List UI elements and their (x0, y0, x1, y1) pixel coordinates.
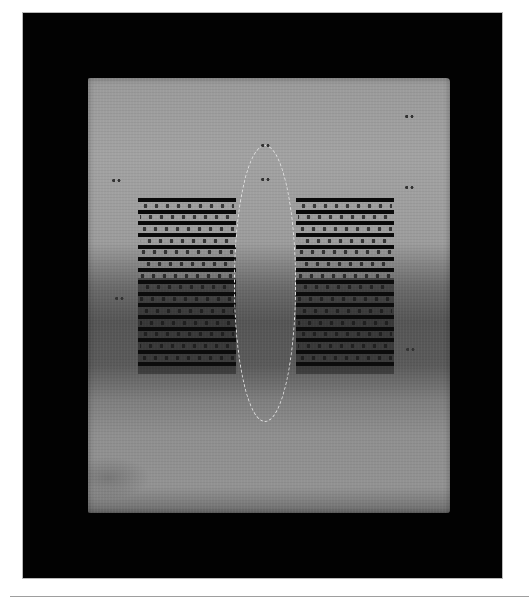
dye-spots (140, 226, 234, 232)
stripe (296, 221, 394, 225)
stripe (296, 257, 394, 261)
stitch-mark (403, 185, 415, 190)
dye-spots (140, 214, 234, 220)
stripe (296, 233, 394, 237)
stripe-shadow (296, 278, 394, 374)
stripe (296, 198, 394, 202)
stripe (296, 268, 394, 272)
stripe-shadow (138, 278, 236, 374)
dye-spots (298, 226, 392, 232)
stripe (138, 268, 236, 272)
dye-spots (140, 203, 234, 209)
dye-spots (298, 238, 392, 244)
bottom-divider-line (10, 596, 529, 597)
dye-spots (298, 249, 392, 255)
dye-spots (298, 203, 392, 209)
stitch-mark (110, 178, 122, 183)
stripe (138, 210, 236, 214)
stitch-mark (403, 114, 415, 119)
stitch-mark (259, 143, 271, 148)
dye-spots (140, 261, 234, 267)
stitch-mark (404, 347, 416, 352)
stripe-block-left (138, 198, 236, 374)
stripe (138, 257, 236, 261)
stripe-block-right (296, 198, 394, 374)
stripe (138, 198, 236, 202)
stripe (296, 245, 394, 249)
dye-spots (298, 214, 392, 220)
stripe (138, 245, 236, 249)
stitch-mark (259, 177, 271, 182)
stripe (296, 210, 394, 214)
stripe (138, 221, 236, 225)
dye-spots (140, 249, 234, 255)
dye-spots (140, 238, 234, 244)
stitch-mark (113, 296, 125, 301)
stitched-lens-shape (234, 145, 296, 422)
stripe (138, 233, 236, 237)
dye-spots (298, 261, 392, 267)
